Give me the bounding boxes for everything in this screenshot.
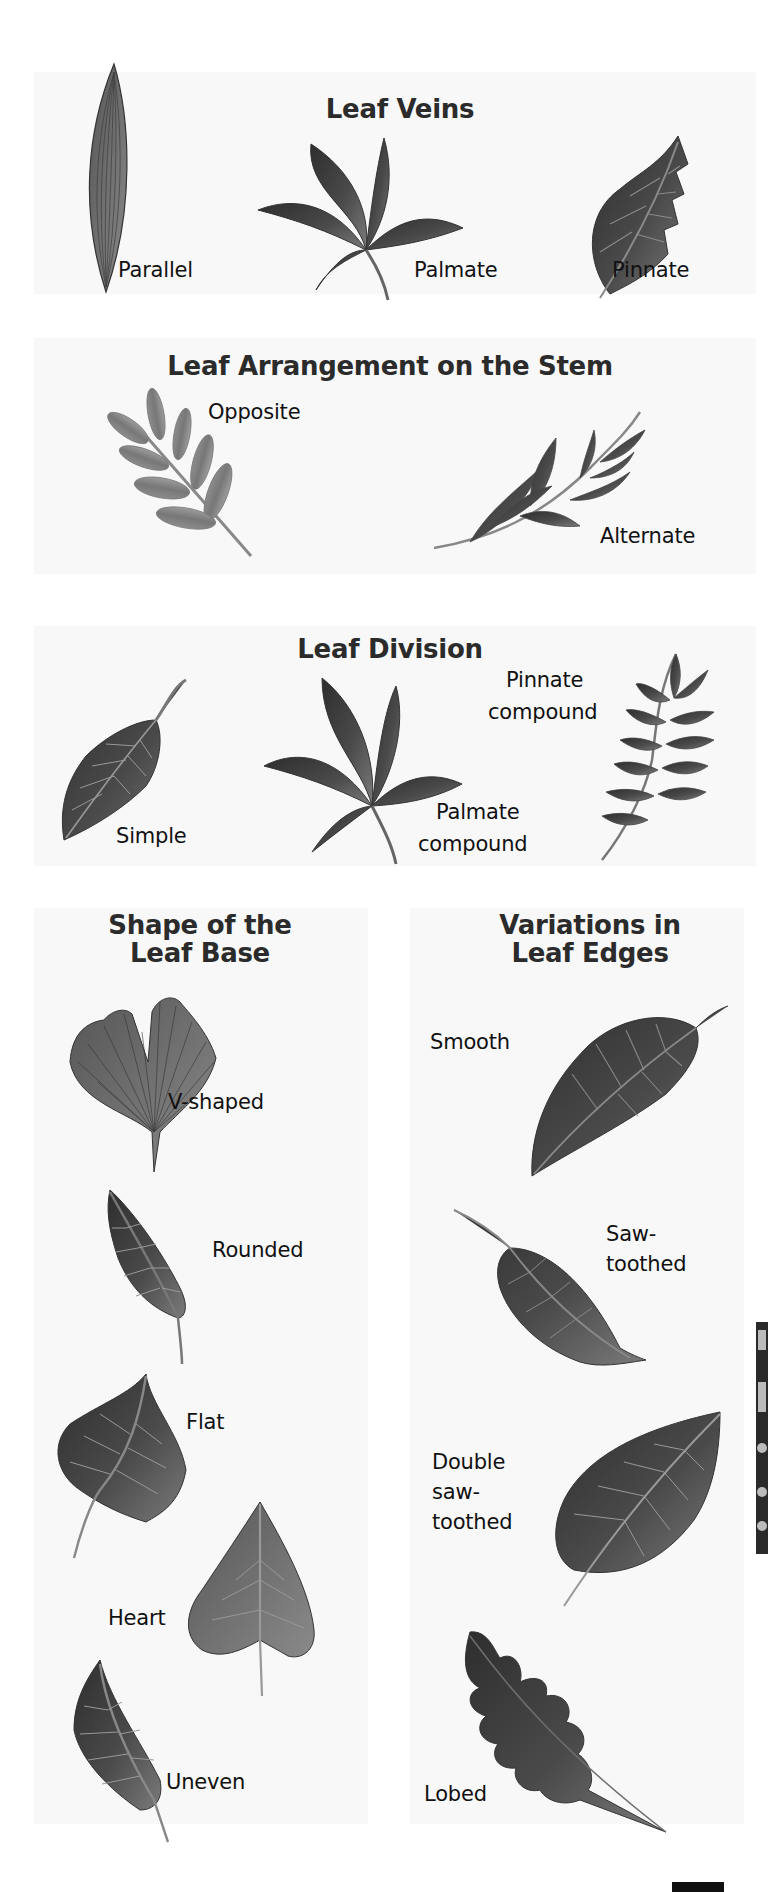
label-lobed: Lobed	[424, 1782, 487, 1806]
leaf-edges-title-line1: Variations in	[460, 912, 720, 939]
label-pinnate: Pinnate	[612, 258, 689, 282]
leaf-division-title: Leaf Division	[280, 636, 500, 663]
label-pinnate-compound-line2: compound	[488, 700, 597, 724]
label-pinnate-compound-line1: Pinnate	[506, 668, 583, 692]
leaf-edges-title-line2: Leaf Edges	[460, 940, 720, 967]
label-double-saw-toothed-line2: saw-	[432, 1480, 480, 1504]
leaf-uneven-icon	[70, 1660, 180, 1842]
label-palmate-compound-line2: compound	[418, 832, 527, 856]
leaf-base-title-line1: Shape of the	[70, 912, 330, 939]
label-heart: Heart	[108, 1606, 165, 1630]
label-alternate: Alternate	[600, 524, 695, 548]
leaf-rounded-icon	[100, 1188, 200, 1364]
leaf-v-shaped-icon	[68, 992, 218, 1172]
page-edge-decoration-icon	[756, 1322, 768, 1554]
leaf-simple-icon	[56, 676, 190, 846]
label-flat: Flat	[186, 1410, 224, 1434]
label-parallel: Parallel	[118, 258, 193, 282]
leaf-base-title-line2: Leaf Base	[70, 940, 330, 967]
leaf-smooth-icon	[526, 1004, 730, 1180]
label-palmate: Palmate	[414, 258, 498, 282]
label-v-shaped: V-shaped	[168, 1090, 264, 1114]
label-double-saw-toothed-line1: Double	[432, 1450, 505, 1474]
label-palmate-compound-line1: Palmate	[436, 800, 520, 824]
label-simple: Simple	[116, 824, 187, 848]
branch-opposite-icon	[106, 396, 256, 566]
leaf-pinnate-compound-icon	[596, 650, 726, 870]
label-double-saw-toothed-line3: toothed	[432, 1510, 512, 1534]
label-saw-toothed-line2: toothed	[606, 1252, 686, 1276]
label-saw-toothed-line1: Saw-	[606, 1222, 656, 1246]
label-smooth: Smooth	[430, 1030, 510, 1054]
label-uneven: Uneven	[166, 1770, 245, 1794]
page-number-mark	[672, 1882, 724, 1892]
leaf-double-saw-toothed-icon	[544, 1410, 724, 1610]
leaf-veins-title: Leaf Veins	[300, 96, 500, 123]
leaf-flat-icon	[50, 1374, 190, 1558]
label-rounded: Rounded	[212, 1238, 303, 1262]
leaf-arrangement-title: Leaf Arrangement on the Stem	[150, 353, 630, 380]
leaf-heart-icon	[182, 1500, 318, 1700]
